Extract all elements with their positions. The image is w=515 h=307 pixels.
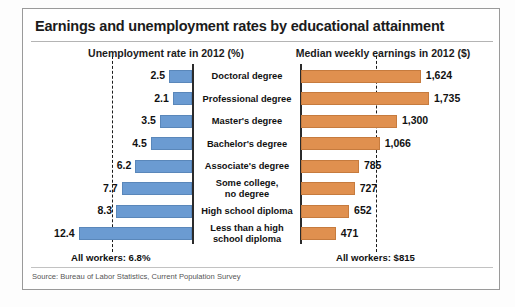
earnings-bar[interactable] [301,70,421,83]
earnings-bar[interactable] [301,160,359,173]
category-label: Associate's degree [195,155,299,178]
chart-card: Earnings and unemployment rates by educa… [22,8,500,290]
left-average-label: All workers: 6.8% [71,252,150,263]
chart-row: 12.4Less than a highschool diploma471 [23,223,501,246]
earnings-value-label: 785 [364,159,382,171]
category-label: High school diploma [195,200,299,223]
unemployment-value-label: 12.4 [54,227,74,239]
earnings-bar[interactable] [301,115,397,128]
source-divider [31,267,493,268]
right-average-label: All workers: $815 [336,252,415,263]
earnings-value-label: 471 [341,227,359,239]
earnings-bar[interactable] [301,227,336,240]
category-label-text: High school diploma [201,206,292,216]
unemployment-bar-cell: 2.1 [23,88,193,111]
category-label-text: Professional degree [203,94,292,104]
unemployment-bar-cell: 8.3 [23,200,193,223]
unemployment-bar-cell: 7.7 [23,178,193,201]
earnings-value-label: 1,066 [385,137,411,149]
earnings-value-label: 1,735 [434,92,460,104]
category-label-text: Doctoral degree [212,71,283,81]
source-note: Source: Bureau of Labor Statistics, Curr… [32,272,241,281]
earnings-bar-cell: 1,066 [301,133,501,156]
unemployment-bar[interactable] [135,160,192,173]
unemployment-value-label: 3.5 [141,114,156,126]
unemployment-bar[interactable] [169,70,192,83]
earnings-bar-cell: 727 [301,178,501,201]
earnings-value-label: 1,624 [426,69,452,81]
unemployment-value-label: 4.5 [132,137,147,149]
category-label: Doctoral degree [195,65,299,88]
category-label-text: Master's degree [212,116,282,126]
unemployment-value-label: 8.3 [97,204,112,216]
earnings-bar-cell: 785 [301,155,501,178]
earnings-bar[interactable] [301,137,380,150]
category-label-text: Some college,no degree [216,178,279,199]
unemployment-bar-cell: 3.5 [23,110,193,133]
chart-row: 4.5Bachelor's degree1,066 [23,133,501,156]
chart-page: Earnings and unemployment rates by educa… [0,0,515,307]
chart-row: 2.5Doctoral degree1,624 [23,65,501,88]
category-label: Less than a highschool diploma [195,223,299,246]
earnings-bar[interactable] [301,182,355,195]
unemployment-bar-cell: 2.5 [23,65,193,88]
category-label-text: Associate's degree [205,161,289,171]
unemployment-bar[interactable] [160,115,192,128]
category-label: Master's degree [195,110,299,133]
category-label: Professional degree [195,88,299,111]
chart-row: 3.5Master's degree1,300 [23,110,501,133]
unemployment-bar[interactable] [151,137,192,150]
unemployment-bar[interactable] [116,205,192,218]
unemployment-bar[interactable] [173,92,192,105]
unemployment-value-label: 6.2 [117,159,132,171]
unemployment-bar-cell: 6.2 [23,155,193,178]
earnings-bar-cell: 1,624 [301,65,501,88]
earnings-bar-cell: 652 [301,200,501,223]
unemployment-bar-cell: 4.5 [23,133,193,156]
plot-area: 2.5Doctoral degree1,6242.1Professional d… [23,9,501,291]
category-label: Bachelor's degree [195,133,299,156]
earnings-value-label: 727 [360,182,378,194]
earnings-bar-cell: 1,300 [301,110,501,133]
category-label-text: Bachelor's degree [207,139,287,149]
unemployment-bar-cell: 12.4 [23,223,193,246]
earnings-value-label: 1,300 [402,114,428,126]
unemployment-value-label: 2.5 [151,69,166,81]
earnings-bar[interactable] [301,205,349,218]
category-label: Some college,no degree [195,178,299,201]
earnings-value-label: 652 [354,204,372,216]
chart-row: 6.2Associate's degree785 [23,155,501,178]
unemployment-value-label: 7.7 [103,182,118,194]
earnings-bar-cell: 471 [301,223,501,246]
unemployment-bar[interactable] [79,227,193,240]
unemployment-value-label: 2.1 [154,92,169,104]
chart-row: 2.1Professional degree1,735 [23,88,501,111]
category-label-text: Less than a highschool diploma [210,223,283,244]
unemployment-bar[interactable] [122,182,192,195]
earnings-bar-cell: 1,735 [301,88,501,111]
earnings-bar[interactable] [301,92,429,105]
chart-row: 8.3High school diploma652 [23,200,501,223]
chart-row: 7.7Some college,no degree727 [23,178,501,201]
